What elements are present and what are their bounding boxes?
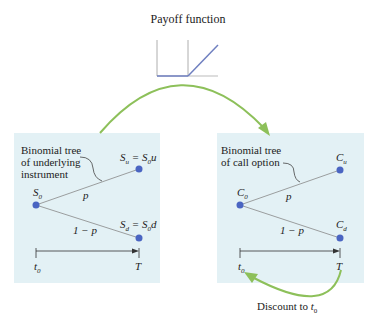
time-end-right: T: [336, 260, 342, 272]
time-start-left: t0: [34, 260, 41, 275]
node-sd: Sd = S0d: [120, 218, 156, 233]
prob-up-right: p: [286, 190, 292, 202]
time-end-left: T: [135, 260, 141, 272]
node-su: Su = S0u: [120, 151, 156, 166]
node-cu: Cu: [336, 151, 347, 166]
node-s0: S0: [33, 186, 42, 201]
prob-up-left: p: [83, 189, 89, 201]
prob-down-right: 1 − p: [280, 224, 304, 236]
node-c0: C0: [237, 186, 248, 201]
prob-down-left: 1 − p: [73, 224, 97, 236]
underlying-tree-label: Binomial tree of underlying instrument: [21, 144, 81, 180]
time-start-right: t0: [238, 260, 245, 275]
payoff-chart: [157, 40, 218, 76]
discount-label: Discount to t0: [257, 300, 317, 315]
option-tree-label: Binomial tree of call option: [221, 144, 281, 168]
node-cd: Cd: [336, 218, 347, 233]
